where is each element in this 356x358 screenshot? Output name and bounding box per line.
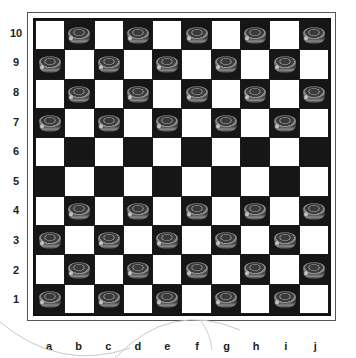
checker-piece-j8[interactable] — [303, 86, 325, 103]
checker-piece-b10[interactable] — [68, 27, 90, 44]
square-c8[interactable] — [95, 80, 123, 108]
square-d8[interactable] — [124, 80, 152, 108]
square-j9[interactable] — [300, 50, 328, 78]
square-a5[interactable] — [36, 167, 64, 195]
square-f4[interactable] — [182, 197, 210, 225]
square-c1[interactable] — [95, 285, 123, 313]
square-c5[interactable] — [95, 167, 123, 195]
square-e3[interactable] — [153, 226, 181, 254]
checker-piece-e9[interactable] — [156, 57, 178, 74]
checker-piece-g9[interactable] — [215, 57, 237, 74]
square-b7[interactable] — [65, 109, 93, 137]
checker-piece-a7[interactable] — [39, 115, 61, 132]
square-b2[interactable] — [65, 255, 93, 283]
square-c3[interactable] — [95, 226, 123, 254]
checker-piece-h8[interactable] — [244, 86, 266, 103]
checker-piece-i3[interactable] — [274, 232, 296, 249]
checker-piece-c7[interactable] — [98, 115, 120, 132]
square-b3[interactable] — [65, 226, 93, 254]
square-i1[interactable] — [270, 285, 298, 313]
square-a9[interactable] — [36, 50, 64, 78]
square-e2[interactable] — [153, 255, 181, 283]
square-j3[interactable] — [300, 226, 328, 254]
square-j4[interactable] — [300, 197, 328, 225]
square-h8[interactable] — [241, 80, 269, 108]
square-c7[interactable] — [95, 109, 123, 137]
square-d2[interactable] — [124, 255, 152, 283]
square-h4[interactable] — [241, 197, 269, 225]
square-b9[interactable] — [65, 50, 93, 78]
checker-piece-h10[interactable] — [244, 27, 266, 44]
square-i7[interactable] — [270, 109, 298, 137]
checker-piece-e3[interactable] — [156, 232, 178, 249]
square-h10[interactable] — [241, 21, 269, 49]
checker-piece-h4[interactable] — [244, 203, 266, 220]
square-h3[interactable] — [241, 226, 269, 254]
square-f7[interactable] — [182, 109, 210, 137]
square-a7[interactable] — [36, 109, 64, 137]
checker-piece-e7[interactable] — [156, 115, 178, 132]
checker-piece-g1[interactable] — [215, 291, 237, 308]
square-e7[interactable] — [153, 109, 181, 137]
square-j8[interactable] — [300, 80, 328, 108]
square-a10[interactable] — [36, 21, 64, 49]
square-j2[interactable] — [300, 255, 328, 283]
square-d10[interactable] — [124, 21, 152, 49]
square-i4[interactable] — [270, 197, 298, 225]
checker-piece-h2[interactable] — [244, 262, 266, 279]
checker-piece-d8[interactable] — [127, 86, 149, 103]
square-d9[interactable] — [124, 50, 152, 78]
square-f1[interactable] — [182, 285, 210, 313]
checker-piece-c1[interactable] — [98, 291, 120, 308]
square-d6[interactable] — [124, 138, 152, 166]
square-a2[interactable] — [36, 255, 64, 283]
square-j10[interactable] — [300, 21, 328, 49]
square-d7[interactable] — [124, 109, 152, 137]
square-a4[interactable] — [36, 197, 64, 225]
checker-piece-d4[interactable] — [127, 203, 149, 220]
checker-piece-f2[interactable] — [186, 262, 208, 279]
checker-piece-i9[interactable] — [274, 57, 296, 74]
square-b4[interactable] — [65, 197, 93, 225]
square-f6[interactable] — [182, 138, 210, 166]
square-b1[interactable] — [65, 285, 93, 313]
checker-piece-j4[interactable] — [303, 203, 325, 220]
checker-piece-f8[interactable] — [186, 86, 208, 103]
square-j5[interactable] — [300, 167, 328, 195]
square-g1[interactable] — [212, 285, 240, 313]
square-h9[interactable] — [241, 50, 269, 78]
square-d1[interactable] — [124, 285, 152, 313]
checker-piece-j10[interactable] — [303, 27, 325, 44]
square-e4[interactable] — [153, 197, 181, 225]
square-i8[interactable] — [270, 80, 298, 108]
checker-piece-g3[interactable] — [215, 232, 237, 249]
checker-piece-f10[interactable] — [186, 27, 208, 44]
square-f8[interactable] — [182, 80, 210, 108]
square-i3[interactable] — [270, 226, 298, 254]
square-h2[interactable] — [241, 255, 269, 283]
square-i2[interactable] — [270, 255, 298, 283]
square-i9[interactable] — [270, 50, 298, 78]
square-g3[interactable] — [212, 226, 240, 254]
square-f10[interactable] — [182, 21, 210, 49]
square-e9[interactable] — [153, 50, 181, 78]
square-c2[interactable] — [95, 255, 123, 283]
square-j1[interactable] — [300, 285, 328, 313]
square-g6[interactable] — [212, 138, 240, 166]
square-b6[interactable] — [65, 138, 93, 166]
checker-piece-b2[interactable] — [68, 262, 90, 279]
square-h1[interactable] — [241, 285, 269, 313]
square-d5[interactable] — [124, 167, 152, 195]
square-b8[interactable] — [65, 80, 93, 108]
square-c4[interactable] — [95, 197, 123, 225]
square-c6[interactable] — [95, 138, 123, 166]
checker-piece-d10[interactable] — [127, 27, 149, 44]
checker-piece-b8[interactable] — [68, 86, 90, 103]
square-e10[interactable] — [153, 21, 181, 49]
square-b10[interactable] — [65, 21, 93, 49]
square-h7[interactable] — [241, 109, 269, 137]
square-a6[interactable] — [36, 138, 64, 166]
square-f2[interactable] — [182, 255, 210, 283]
square-i10[interactable] — [270, 21, 298, 49]
checker-piece-b4[interactable] — [68, 203, 90, 220]
